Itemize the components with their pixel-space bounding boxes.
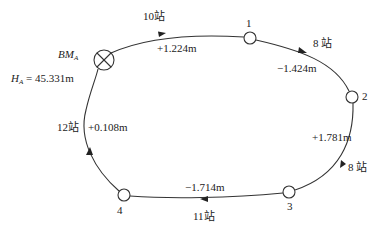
leveling-loop-diagram bbox=[0, 0, 380, 234]
segment-3-4-stations: 11站 bbox=[193, 211, 215, 222]
benchmark-symbol-icon bbox=[94, 50, 114, 70]
segment-bm-1-stations: 10站 bbox=[143, 11, 165, 22]
benchmark-height: HA = 45.331m bbox=[11, 73, 74, 86]
segment-2-3-height-diff: +1.781m bbox=[312, 132, 352, 143]
point-3-node bbox=[283, 186, 295, 198]
segment-4-bm-height-diff: +0.108m bbox=[88, 122, 128, 133]
point-3-label: 3 bbox=[287, 201, 293, 212]
segment-2-3-stations: 8 站 bbox=[348, 162, 367, 173]
point-4-node bbox=[118, 189, 130, 201]
point-4-label: 4 bbox=[117, 205, 123, 216]
segment-2-to-3 bbox=[295, 103, 353, 190]
point-2-node bbox=[346, 91, 358, 103]
segment-bm-1-height-diff: +1.224m bbox=[157, 43, 197, 54]
point-2-label: 2 bbox=[362, 91, 368, 102]
arrow-icon bbox=[158, 32, 166, 38]
point-1-node bbox=[244, 32, 256, 44]
segment-3-4-height-diff: −1.714m bbox=[185, 182, 225, 193]
arrow-icon bbox=[298, 47, 307, 53]
segment-1-2-height-diff: −1.424m bbox=[277, 63, 317, 74]
segment-1-2-stations: 8 站 bbox=[313, 38, 332, 49]
arrow-icon bbox=[340, 160, 346, 168]
arrow-icon bbox=[86, 147, 93, 155]
segment-4-bm-stations: 12站 bbox=[57, 122, 79, 133]
benchmark-label: BMA bbox=[58, 49, 78, 62]
arrow-icon bbox=[200, 196, 208, 202]
point-1-label: 1 bbox=[246, 18, 252, 29]
